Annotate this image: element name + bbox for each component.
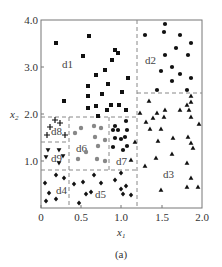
region-label-d2: d2: [145, 54, 156, 66]
region-labels: d1 d2 d3 d4 d5 d6 d7 d8 d9: [51, 54, 175, 200]
y-tick-4-0: 4.0: [24, 14, 38, 26]
x-axis-label: x1: [116, 226, 125, 240]
region-label-d4: d4: [56, 184, 68, 196]
y-axis-label: x2: [9, 108, 19, 122]
x-tick-2-0: 2.0: [195, 211, 209, 223]
region-label-d1: d1: [62, 58, 73, 70]
y-tick-1-0: 1.0: [24, 155, 38, 167]
x-tick-labels: 0 0.5 1.0 1.5 2.0: [38, 211, 209, 223]
x-tick-1-0: 1.0: [114, 211, 128, 223]
y-tick-labels: 1.0 2.0 3.0 4.0: [24, 14, 38, 167]
x-tick-0: 0: [38, 211, 44, 223]
x-tick-0-5: 0.5: [74, 211, 88, 223]
partition-diagram: 0 0.5 1.0 1.5 2.0 1.0 2.0 3.0 4.0 x1 x2 …: [0, 0, 222, 267]
region-label-d5: d5: [95, 188, 107, 200]
figure-caption: (a): [115, 248, 128, 261]
d1-square-markers: [54, 34, 130, 118]
y-tick-2-0: 2.0: [24, 108, 38, 120]
d7-circle-markers: [111, 119, 129, 152]
region-label-d3: d3: [163, 168, 175, 180]
region-label-d7: d7: [116, 155, 128, 167]
x-tick-1-5: 1.5: [155, 211, 169, 223]
y-tick-3-0: 3.0: [24, 61, 38, 73]
